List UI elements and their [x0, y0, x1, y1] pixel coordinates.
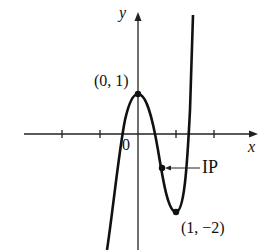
cubic-curve	[107, 15, 193, 250]
x-axis-label: x	[248, 138, 255, 156]
ip-label: IP	[202, 157, 218, 178]
x-axis-arrow-icon	[249, 131, 258, 138]
y-axis-arrow-icon	[135, 12, 142, 21]
ip-arrow-icon	[165, 166, 171, 171]
inflection-point	[159, 165, 165, 171]
y-axis-label: y	[119, 4, 126, 22]
local-max-point	[135, 91, 141, 97]
min-point-label: (1, −2)	[181, 219, 225, 237]
graph-svg	[0, 0, 259, 250]
origin-label: 0	[122, 136, 130, 154]
max-point-label: (0, 1)	[94, 72, 129, 90]
chart-area: y x 0 (0, 1) (1, −2) IP	[0, 0, 259, 250]
local-min-point	[173, 209, 179, 215]
